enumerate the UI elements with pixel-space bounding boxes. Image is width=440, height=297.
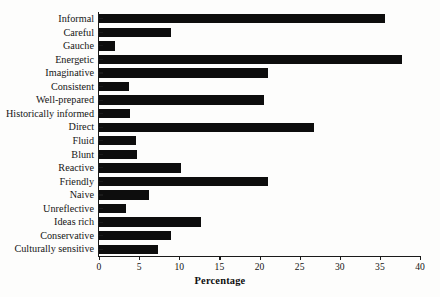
- category-label-direct: Direct: [69, 120, 99, 134]
- bar-consistent: [99, 82, 129, 91]
- x-axis-tick-label: 25: [295, 261, 305, 272]
- bar-ideas-rich: [99, 217, 201, 226]
- category-label-friendly: Friendly: [59, 175, 99, 189]
- y-axis-tick: [99, 167, 103, 168]
- y-axis-tick: [99, 72, 103, 73]
- bar-row: Well-prepared: [99, 93, 264, 107]
- y-axis-tick: [99, 45, 103, 46]
- x-axis-tick-label: 20: [255, 261, 265, 272]
- y-axis-tick: [99, 208, 103, 209]
- bar-row: Careful: [99, 26, 171, 40]
- category-label-energetic: Energetic: [55, 53, 99, 67]
- bar-chart: InformalCarefulGaucheEnergeticImaginativ…: [0, 0, 440, 297]
- category-label-ideas-rich: Ideas rich: [54, 215, 99, 229]
- x-axis-tick: [219, 256, 220, 260]
- bar-row: Blunt: [99, 148, 137, 162]
- bar-row: Consistent: [99, 80, 129, 94]
- bar-row: Historically informed: [99, 107, 130, 121]
- bar-direct: [99, 123, 314, 132]
- bar-row: Direct: [99, 120, 314, 134]
- category-label-naive: Naive: [70, 188, 99, 202]
- x-axis-title: Percentage: [0, 275, 440, 286]
- category-label-careful: Careful: [63, 26, 99, 40]
- bar-row: Conservative: [99, 229, 171, 243]
- x-axis-tick: [179, 256, 180, 260]
- category-label-historically-informed: Historically informed: [6, 107, 99, 121]
- bar-row: Ideas rich: [99, 215, 201, 229]
- category-label-consistent: Consistent: [51, 80, 99, 94]
- category-label-reactive: Reactive: [58, 161, 99, 175]
- x-axis-tick: [300, 256, 301, 260]
- bar-row: Naive: [99, 188, 149, 202]
- bar-informal: [99, 14, 385, 23]
- bar-imaginative: [99, 68, 268, 77]
- bar-culturally-sensitive: [99, 245, 158, 254]
- x-axis-tick-label: 15: [215, 261, 225, 272]
- y-axis-tick: [99, 235, 103, 236]
- bar-careful: [99, 28, 171, 37]
- bar-unreflective: [99, 204, 126, 213]
- y-axis-tick: [99, 18, 103, 19]
- category-label-culturally-sensitive: Culturally sensitive: [14, 242, 99, 256]
- x-axis-tick-label: 40: [415, 261, 425, 272]
- category-label-fluid: Fluid: [72, 134, 99, 148]
- x-axis-tick: [260, 256, 261, 260]
- category-label-gauche: Gauche: [63, 39, 99, 53]
- bar-naive: [99, 190, 149, 199]
- bar-well-prepared: [99, 95, 264, 104]
- x-axis-tick-label: 0: [97, 261, 102, 272]
- bar-row: Energetic: [99, 53, 402, 67]
- bar-blunt: [99, 150, 137, 159]
- category-label-well-prepared: Well-prepared: [36, 93, 99, 107]
- y-axis-tick: [99, 181, 103, 182]
- bar-row: Culturally sensitive: [99, 242, 158, 256]
- bar-row: Imaginative: [99, 66, 268, 80]
- category-label-conservative: Conservative: [40, 229, 99, 243]
- x-axis-tick: [420, 256, 421, 260]
- bar-reactive: [99, 163, 181, 172]
- x-axis-tick: [99, 256, 100, 260]
- x-axis-tick: [139, 256, 140, 260]
- y-axis-tick: [99, 140, 103, 141]
- y-axis-tick: [99, 222, 103, 223]
- x-axis-tick: [340, 256, 341, 260]
- y-axis-tick: [99, 32, 103, 33]
- x-axis-tick-label: 10: [174, 261, 184, 272]
- category-label-informal: Informal: [58, 12, 99, 26]
- y-axis-tick: [99, 249, 103, 250]
- y-axis-tick: [99, 154, 103, 155]
- bar-row: Informal: [99, 12, 385, 26]
- y-axis-tick: [99, 113, 103, 114]
- y-axis-tick: [99, 59, 103, 60]
- bar-energetic: [99, 55, 402, 64]
- x-axis-tick-label: 30: [335, 261, 345, 272]
- bar-friendly: [99, 177, 268, 186]
- x-axis-tick: [380, 256, 381, 260]
- bar-conservative: [99, 231, 171, 240]
- plot-area: InformalCarefulGaucheEnergeticImaginativ…: [99, 12, 420, 256]
- category-label-blunt: Blunt: [71, 148, 99, 162]
- bar-row: Friendly: [99, 175, 268, 189]
- y-axis-tick: [99, 100, 103, 101]
- y-axis-tick: [99, 127, 103, 128]
- bar-row: Gauche: [99, 39, 115, 53]
- category-label-imaginative: Imaginative: [45, 66, 99, 80]
- y-axis-tick: [99, 194, 103, 195]
- bar-row: Reactive: [99, 161, 181, 175]
- bar-row: Fluid: [99, 134, 136, 148]
- bar-historically-informed: [99, 109, 130, 118]
- chart-title: [0, 0, 440, 10]
- x-axis-tick-label: 35: [375, 261, 385, 272]
- category-label-unreflective: Unreflective: [43, 202, 99, 216]
- bar-row: Unreflective: [99, 202, 126, 216]
- bar-fluid: [99, 136, 136, 145]
- x-axis-tick-label: 5: [137, 261, 142, 272]
- y-axis-tick: [99, 86, 103, 87]
